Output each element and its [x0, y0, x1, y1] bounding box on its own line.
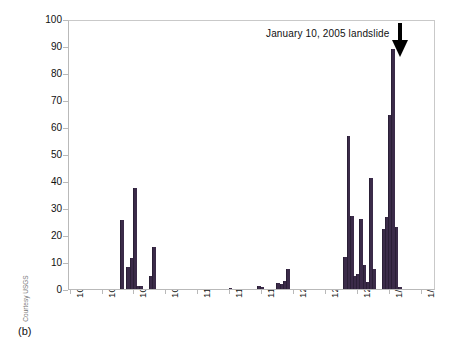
- y-tick-label: 60: [32, 123, 62, 133]
- down-arrow-icon: [391, 23, 409, 59]
- plot-frame: [68, 20, 435, 290]
- bar: [372, 269, 376, 289]
- x-tick-mark: [197, 290, 198, 294]
- x-tick-mark: [165, 290, 166, 294]
- y-tick-label: 10: [32, 258, 62, 268]
- bar: [139, 286, 143, 289]
- bar: [395, 227, 399, 289]
- y-tick-label: 90: [32, 42, 62, 52]
- y-tick-label: 100: [32, 15, 62, 25]
- x-tick-mark: [357, 290, 358, 294]
- bar: [286, 269, 290, 289]
- bar: [398, 287, 402, 289]
- x-tick-mark: [389, 290, 390, 294]
- y-tick-label: 30: [32, 204, 62, 214]
- landslide-annotation-label: January 10, 2005 landslide: [266, 28, 389, 39]
- bar: [152, 247, 156, 289]
- bar: [229, 288, 233, 289]
- x-tick-mark: [293, 290, 294, 294]
- y-tick-label: 0: [32, 285, 62, 295]
- y-tick-label: 80: [32, 69, 62, 79]
- y-tick-label: 40: [32, 177, 62, 187]
- x-tick-mark: [421, 290, 422, 294]
- x-tick-mark: [261, 290, 262, 294]
- bar: [133, 188, 137, 289]
- y-tick-label: 70: [32, 96, 62, 106]
- x-tick-mark: [102, 290, 103, 294]
- y-tick-label: 50: [32, 150, 62, 160]
- panel-label: (b): [18, 325, 31, 337]
- y-tick-label: 20: [32, 231, 62, 241]
- bar: [260, 287, 264, 289]
- bars-container: [69, 21, 434, 289]
- x-tick-mark: [70, 290, 71, 294]
- rainfall-figure: Rainfall (millimeters) 01020304050607080…: [0, 0, 453, 357]
- x-tick-mark: [229, 290, 230, 294]
- bar: [120, 220, 124, 289]
- x-tick-mark: [133, 290, 134, 294]
- credit-text: Courtesy USGS: [22, 264, 29, 334]
- y-tick-mark: [63, 290, 68, 291]
- x-tick-mark: [325, 290, 326, 294]
